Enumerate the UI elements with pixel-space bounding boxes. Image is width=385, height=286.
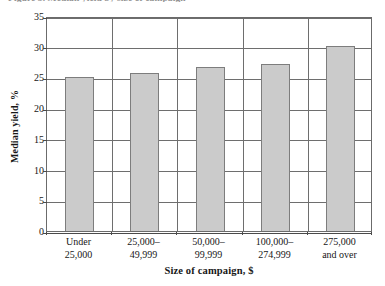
x-category-label-4: 100,000–274,999	[242, 236, 307, 261]
bar-2[interactable]	[130, 73, 159, 231]
x-tick-4	[307, 232, 308, 235]
x-category-label-3: 50,000–99,999	[176, 236, 241, 261]
x-tick-0	[46, 232, 47, 235]
y-tick-label-10: 10	[22, 166, 44, 176]
x-category-label-line2: 274,999	[242, 249, 307, 262]
x-tick-1	[111, 232, 112, 235]
y-axis-tick-labels: 05101520253035	[22, 0, 44, 286]
x-category-label-line1: 275,000	[323, 236, 356, 247]
x-category-label-2: 25,000–49,999	[111, 236, 176, 261]
x-category-label-line1: 25,000–	[127, 236, 160, 247]
x-category-label-line1: 100,000–	[256, 236, 294, 247]
y-tick-label-30: 30	[22, 43, 44, 53]
x-category-label-5: 275,000and over	[307, 236, 372, 261]
bar-4[interactable]	[261, 64, 290, 231]
bar-series	[47, 18, 371, 231]
y-tick-label-20: 20	[22, 104, 44, 114]
bar-chart-figure: Figure 3. Median yield by size of campai…	[0, 0, 385, 286]
y-tick-label-5: 5	[22, 196, 44, 206]
x-category-label-line2: 99,999	[176, 249, 241, 262]
y-axis-title-text: Median yield, %	[10, 89, 21, 162]
bar-1[interactable]	[65, 77, 94, 231]
y-tick-label-25: 25	[22, 73, 44, 83]
y-tick-label-0: 0	[22, 227, 44, 237]
y-tick-label-15: 15	[22, 135, 44, 145]
figure-caption-remnant: Figure 3. Median yield by size of campai…	[8, 0, 378, 2]
x-category-label-1: Under25,000	[46, 236, 111, 261]
x-category-label-line2: 49,999	[111, 249, 176, 262]
x-category-label-line2: 25,000	[46, 249, 111, 262]
y-axis-title: Median yield, %	[8, 70, 22, 182]
x-axis-category-labels: Under25,00025,000–49,99950,000–99,999100…	[46, 236, 372, 266]
x-tick-5	[371, 232, 372, 235]
x-tick-2	[176, 232, 177, 235]
plot-area	[46, 17, 372, 232]
x-axis-title: Size of campaign, $	[46, 265, 372, 276]
x-category-label-line2: and over	[307, 249, 372, 262]
x-category-label-line1: 50,000–	[192, 236, 225, 247]
x-tick-3	[242, 232, 243, 235]
y-tick-label-35: 35	[22, 12, 44, 22]
x-category-label-line1: Under	[66, 236, 91, 247]
bar-3[interactable]	[196, 67, 225, 231]
bar-5[interactable]	[326, 46, 355, 232]
